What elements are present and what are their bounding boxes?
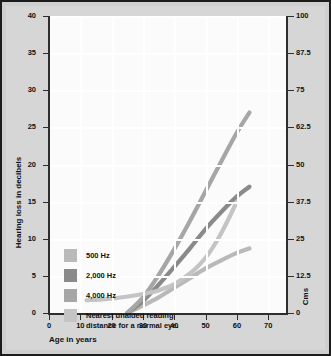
gridline-horizontal: [49, 127, 287, 129]
y2-axis-tick-label: 37.5: [296, 198, 311, 206]
y-axis-tick-label: 5: [32, 272, 36, 280]
x-axis-tick: [237, 315, 238, 320]
y2-axis-tick: [288, 165, 294, 166]
y2-axis-tick: [288, 53, 294, 54]
y-axis-tick: [43, 90, 49, 91]
y2-axis-tick: [288, 202, 294, 203]
legend-item: 2,000 Hz: [64, 269, 179, 282]
y2-axis-tick-label: 87.5: [296, 49, 311, 57]
x-axis-tick-label: 70: [264, 322, 272, 330]
y-axis-tick-label: 25: [28, 123, 36, 131]
legend-color-swatch: [64, 249, 77, 262]
legend-item-label: 2,000 Hz: [86, 269, 116, 281]
y-axis-tick-label: 35: [28, 49, 36, 57]
y2-axis-tick-label: 12.5: [296, 272, 311, 280]
y-axis-tick: [43, 202, 49, 203]
y-axis-tick: [43, 16, 49, 17]
y2-axis-title: Cms: [301, 280, 310, 314]
legend-item-label: 500 Hz: [86, 249, 110, 261]
gridline-horizontal: [49, 165, 287, 167]
legend-color-swatch: [64, 289, 77, 302]
legend-item-label: 4,000 Hz: [86, 289, 116, 301]
legend-item: Nearest unaided reading distance for a n…: [64, 309, 179, 331]
chart-frame: 0510152025303540012.52537.55062.57587.51…: [0, 0, 331, 356]
chart-legend: 500 Hz2,000 Hz4,000 HzNearest unaided re…: [64, 249, 179, 338]
y-axis-tick-label: 15: [28, 198, 36, 206]
x-axis-tick-label: 60: [233, 322, 241, 330]
y2-axis-tick: [288, 239, 294, 240]
y2-axis-tick: [288, 313, 294, 314]
legend-item: 4,000 Hz: [64, 289, 179, 302]
gridline-horizontal: [49, 239, 287, 241]
y-axis-tick: [43, 53, 49, 54]
y-axis-tick: [43, 239, 49, 240]
y-axis-title: Hearing loss in decibels: [14, 143, 23, 263]
x-axis-tick: [49, 315, 50, 320]
y2-axis-tick: [288, 90, 294, 91]
legend-color-swatch: [64, 309, 77, 322]
x-axis-tick: [268, 315, 269, 320]
y2-axis-tick-label: 62.5: [296, 123, 311, 131]
y-axis-tick-label: 20: [28, 161, 36, 169]
y-axis-tick: [43, 313, 49, 314]
legend-item-label: Nearest unaided reading distance for a n…: [86, 309, 179, 331]
gridline-horizontal: [49, 53, 287, 55]
legend-color-swatch: [64, 269, 77, 282]
y2-axis-tick-label: 75: [296, 86, 304, 94]
y2-axis-tick-label: 100: [296, 12, 309, 20]
y-axis-tick-label: 30: [28, 86, 36, 94]
y-axis-tick: [43, 165, 49, 166]
x-axis-tick-label: 50: [201, 322, 209, 330]
x-axis-tick-label: 0: [47, 322, 51, 330]
y2-axis-tick: [288, 16, 294, 17]
y-axis-tick-label: 10: [28, 235, 36, 243]
y-axis-tick: [43, 276, 49, 277]
y2-axis-tick-label: 25: [296, 235, 304, 243]
y2-axis-tick: [288, 276, 294, 277]
gridline-horizontal: [49, 16, 287, 18]
y-axis-tick-label: 40: [28, 12, 36, 20]
y2-axis-tick: [288, 127, 294, 128]
y2-axis-tick-label: 50: [296, 161, 304, 169]
gridline-horizontal: [49, 202, 287, 204]
x-axis-tick: [206, 315, 207, 320]
y-axis-line: [48, 16, 50, 315]
y-axis-tick-label: 0: [32, 309, 36, 317]
y-axis-tick: [43, 127, 49, 128]
gridline-horizontal: [49, 90, 287, 92]
y2-axis-line: [286, 16, 288, 315]
legend-item: 500 Hz: [64, 249, 179, 262]
